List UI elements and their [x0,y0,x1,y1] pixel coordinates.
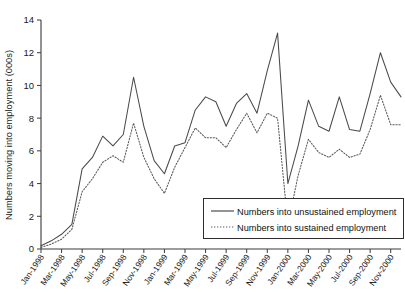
y-tick-label: 14 [23,14,34,25]
y-tick-label: 2 [29,211,34,222]
y-tick-label: 10 [23,80,34,91]
legend: Numbers into unsustained employment Numb… [204,199,404,239]
legend-label-sustained: Numbers into sustained employment [237,223,387,233]
y-tick-label: 6 [29,145,34,156]
y-tick-label: 4 [29,178,34,189]
legend-label-unsustained: Numbers into unsustained employment [237,207,397,217]
legend-box [204,199,404,239]
y-tick-label: 8 [29,113,34,124]
chart-plot-area: 02468101214 Numbers moving into employme… [0,0,405,297]
x-axis-group: Jan-1998Mar-1998May-1998Jul-1998Sep-1998… [18,249,401,288]
x-tick-label-group: Jan-1998Mar-1998May-1998Jul-1998Sep-1998… [18,252,396,288]
y-axis-title: Numbers moving into employment (000s) [4,50,14,220]
y-axis-group: 02468101214 Numbers moving into employme… [4,14,41,254]
y-tick-label: 12 [23,47,34,58]
line-chart-container: 02468101214 Numbers moving into employme… [0,0,405,297]
y-tick-group [37,20,41,249]
x-tick-group [41,249,391,253]
y-tick-label: 0 [29,243,34,254]
y-tick-label-group: 02468101214 [23,14,34,254]
